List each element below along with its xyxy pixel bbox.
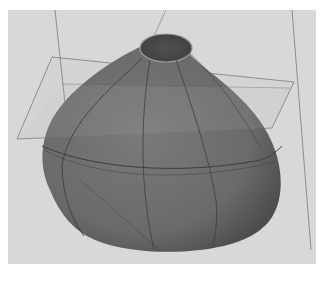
render-scene [0,0,322,284]
top-opening [140,34,192,62]
